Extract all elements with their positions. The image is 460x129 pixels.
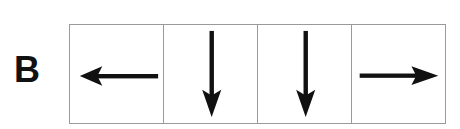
arrow-down-icon <box>164 25 257 123</box>
cell-2 <box>163 24 258 124</box>
cell-4 <box>351 24 446 124</box>
panel-label: B <box>14 52 40 88</box>
arrow-right-icon <box>352 25 445 123</box>
arrow-down-icon <box>258 25 351 123</box>
arrow-sequence <box>69 24 446 124</box>
cell-3 <box>257 24 352 124</box>
cell-1 <box>69 24 164 124</box>
arrow-left-icon <box>70 25 163 123</box>
